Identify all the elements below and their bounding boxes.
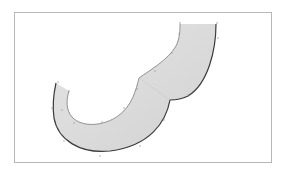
ribbon-diagram (0, 0, 284, 172)
ribbon-shape (53, 24, 216, 151)
